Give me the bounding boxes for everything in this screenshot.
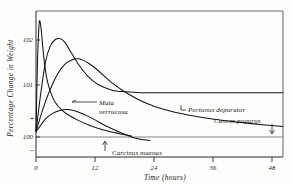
carcinus-arrow-icon: [103, 141, 108, 151]
chart-svg: 102 101 100 + – 0 12 24 36 48 Time (hour…: [0, 0, 292, 184]
portunus-leader-line: [181, 105, 186, 110]
curve-carcinus-maenas: [36, 110, 150, 141]
x-tick-label-12: 12: [92, 164, 99, 171]
curve-maia-verrucosa: [36, 21, 131, 136]
figure-container: 102 101 100 + – 0 12 24 36 48 Time (hour…: [0, 0, 292, 184]
y-sign-minus: –: [29, 145, 35, 154]
plot-frame: [36, 11, 283, 157]
y-tick-label-101: 101: [23, 81, 33, 88]
maia-leader-line: [72, 100, 97, 102]
y-tick-label-102: 102: [23, 36, 34, 43]
series-label-portunus: Portunus depurator: [187, 106, 245, 113]
y-tick-label-100: 100: [23, 133, 34, 140]
x-axis-title: Time (hours): [144, 173, 186, 182]
series-label-cancer: Cancer pagurus: [214, 117, 261, 124]
y-axis-title: Percentage Change in Weight: [6, 39, 15, 138]
series-label-maia-line1: Maia: [98, 99, 115, 106]
x-tick-label-24: 24: [151, 164, 158, 171]
x-tick-label-0: 0: [34, 164, 38, 171]
series-label-carcinus: Carcinus maenas: [112, 149, 162, 156]
series-label-maia-line2: verrucosa: [99, 108, 128, 115]
x-tick-label-48: 48: [269, 164, 276, 171]
x-tick-label-36: 36: [209, 164, 217, 171]
y-sign-plus: +: [30, 114, 35, 123]
